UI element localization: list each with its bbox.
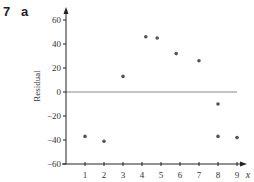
data-point — [155, 36, 159, 40]
x-tick-label: 7 — [197, 170, 202, 180]
y-tick-label: 0 — [57, 87, 62, 97]
x-tick-label: 8 — [216, 170, 221, 180]
y-tick-label: −20 — [47, 111, 62, 121]
x-tick-label: 3 — [121, 170, 126, 180]
data-point — [235, 136, 239, 140]
data-point — [144, 35, 148, 39]
y-axis-title: Residual — [32, 70, 42, 102]
data-point — [216, 135, 220, 139]
x-tick-label: 6 — [178, 170, 183, 180]
x-axis-title: x — [245, 169, 251, 180]
data-point — [216, 102, 220, 106]
y-tick-label: −60 — [47, 159, 62, 169]
x-tick-label: 2 — [102, 170, 107, 180]
y-tick-label: −40 — [47, 135, 62, 145]
data-point — [197, 59, 201, 63]
y-tick-label: 20 — [52, 63, 62, 73]
x-tick-label: 1 — [83, 170, 88, 180]
x-tick-label: 9 — [235, 170, 240, 180]
data-point — [83, 135, 87, 139]
residual-plot: 6040200−20−40−60123456789xResidual — [0, 0, 254, 182]
y-tick-label: 60 — [52, 15, 62, 25]
y-axis-arrow-icon — [64, 7, 69, 14]
x-tick-label: 4 — [140, 170, 145, 180]
x-axis-arrow-icon — [240, 162, 247, 167]
y-tick-label: 40 — [52, 39, 62, 49]
x-tick-label: 5 — [159, 170, 164, 180]
data-point — [121, 75, 125, 79]
data-point — [174, 52, 178, 56]
data-point — [102, 139, 106, 143]
